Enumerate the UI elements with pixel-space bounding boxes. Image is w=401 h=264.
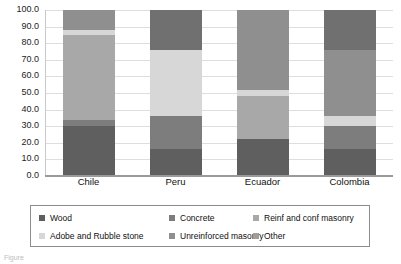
bar-column [150,10,202,176]
bar-segment [63,35,115,120]
y-tick-label: 50.0 [21,88,39,97]
bar-segment [150,149,202,176]
y-axis-tick-labels: 100.090.080.070.060.050.040.030.020.010.… [0,6,42,184]
bar-segment [324,126,376,149]
figure-caption-stub: Figure [4,253,124,262]
legend-item[interactable]: Wood [39,209,72,226]
bar-segment [237,10,289,90]
y-tick-label: 100.0 [16,5,39,14]
legend-swatch-icon [39,233,45,239]
y-tick-label: 30.0 [21,121,39,130]
legend-swatch-icon [253,215,259,221]
legend-item-label: Wood [50,213,72,223]
legend-swatch-icon [169,233,175,239]
x-tick-label: Peru [131,176,221,188]
y-tick-label: 70.0 [21,55,39,64]
bar-segment [324,50,376,116]
bar-segment [63,120,115,127]
legend-row-1: WoodConcreteReinf and conf masonry [31,209,369,226]
legend-item[interactable]: Unreinforced masonry [169,227,264,244]
legend-item-label: Unreinforced masonry [180,231,264,241]
legend-item[interactable]: Concrete [169,209,215,226]
plot-area [45,10,393,176]
legend-swatch-icon [39,215,45,221]
y-tick-label: 60.0 [21,71,39,80]
y-tick-label: 10.0 [21,154,39,163]
legend-swatch-icon [169,215,175,221]
bar-segment [63,10,115,30]
bar-series-container [45,10,393,176]
bar-segment [324,149,376,176]
y-tick-label: 0.0 [26,171,39,180]
legend-item[interactable]: Reinf and conf masonry [253,209,354,226]
bar-segment [63,126,115,176]
legend-item[interactable]: Adobe and Rubble stone [39,227,144,244]
y-tick-label: 40.0 [21,105,39,114]
x-tick-label: Colombia [305,176,395,188]
bar-segment [324,10,376,50]
legend-item-label: Concrete [180,213,215,223]
bar-column [324,10,376,176]
bar-segment [63,30,115,35]
bar-segment [237,139,289,176]
stacked-bar-chart: 100.090.080.070.060.050.040.030.020.010.… [0,0,401,264]
chart-legend: WoodConcreteReinf and conf masonry Adobe… [30,205,370,247]
y-tick-label: 80.0 [21,38,39,47]
y-tick-label: 20.0 [21,138,39,147]
legend-item[interactable]: Other [253,227,285,244]
x-tick-label: Chile [44,176,134,188]
bar-column [63,10,115,176]
bar-segment [150,116,202,149]
x-axis-category-labels: ChilePeruEcuadorColombia [45,176,393,194]
bar-segment [324,116,376,126]
y-tick-label: 90.0 [21,22,39,31]
legend-item-label: Adobe and Rubble stone [50,231,144,241]
bar-segment [150,10,202,50]
bar-segment [237,96,289,139]
x-tick-label: Ecuador [218,176,308,188]
bar-segment [150,50,202,116]
bar-segment [237,90,289,97]
legend-item-label: Reinf and conf masonry [264,213,354,223]
bar-column [237,10,289,176]
plot-area-wrapper: 100.090.080.070.060.050.040.030.020.010.… [0,6,401,184]
legend-swatch-icon [253,233,259,239]
legend-row-2: Adobe and Rubble stoneUnreinforced mason… [31,227,369,244]
legend-item-label: Other [264,231,285,241]
